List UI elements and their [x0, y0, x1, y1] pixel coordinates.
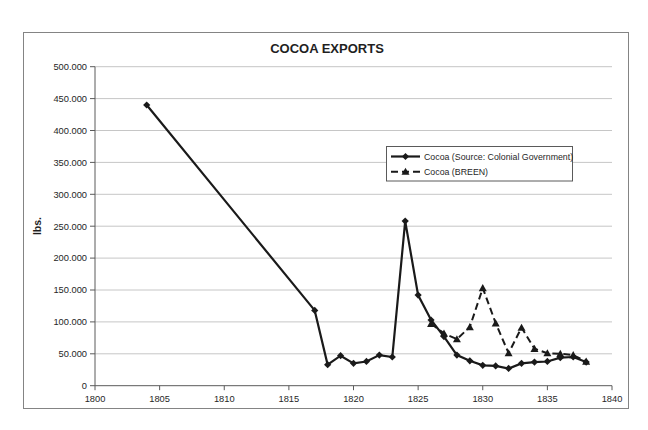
y-axis-title: lbs. — [31, 217, 43, 235]
y-tick-label: 150.000 — [53, 285, 87, 295]
y-tick-label: 350.000 — [53, 158, 87, 168]
y-tick-label: 450.000 — [53, 94, 87, 104]
x-tick-label: 1815 — [279, 394, 300, 404]
y-tick-label: 0 — [82, 381, 87, 391]
x-tick-label: 1835 — [537, 394, 558, 404]
x-tick-label: 1830 — [472, 394, 493, 404]
legend-label-breen: Cocoa (BREEN) — [424, 167, 488, 177]
y-tick-label: 100.000 — [53, 317, 87, 327]
y-tick-label: 50.000 — [59, 349, 87, 359]
x-tick-label: 1800 — [85, 394, 106, 404]
chart-title: COCOA EXPORTS — [270, 41, 384, 56]
x-tick-label: 1805 — [149, 394, 170, 404]
chart-frame — [24, 33, 629, 409]
legend: Cocoa (Source: Colonial Government) Coco… — [387, 147, 574, 182]
y-tick-label: 200.000 — [53, 253, 87, 263]
cocoa-exports-chart: 050.000100.000150.000200.000250.000300.0… — [0, 0, 648, 430]
y-tick-label: 500.000 — [53, 62, 87, 72]
y-tick-label: 300.000 — [53, 190, 87, 200]
x-tick-label: 1825 — [408, 394, 429, 404]
x-tick-label: 1840 — [602, 394, 623, 404]
y-tick-label: 250.000 — [53, 222, 87, 232]
x-tick-label: 1810 — [214, 394, 235, 404]
legend-label-colonial-government: Cocoa (Source: Colonial Government) — [424, 152, 573, 162]
x-tick-label: 1820 — [343, 394, 364, 404]
chart-page: 050.000100.000150.000200.000250.000300.0… — [0, 0, 648, 430]
y-tick-label: 400.000 — [53, 126, 87, 136]
